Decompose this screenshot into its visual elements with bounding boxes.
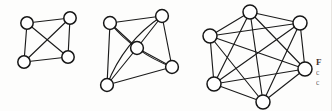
- graph-node: [293, 16, 307, 30]
- caption-line-2: c: [316, 68, 332, 77]
- graph-edge: [214, 23, 300, 84]
- graph-edge: [210, 23, 300, 36]
- complete-graphs-illustration: [0, 0, 332, 111]
- graph-node: [104, 17, 117, 30]
- graph-node: [166, 61, 179, 74]
- graph-node: [203, 29, 217, 43]
- caption-line-3: c: [316, 78, 332, 87]
- graph-edge: [263, 69, 305, 102]
- graph-node: [18, 56, 30, 68]
- graph-node: [298, 62, 312, 76]
- graph-edge: [107, 23, 110, 85]
- graph-edge: [263, 23, 300, 102]
- graph-node: [256, 95, 270, 109]
- graph-edge: [107, 67, 172, 85]
- graph-node: [156, 10, 169, 23]
- graph-node: [207, 77, 221, 91]
- graph-node: [101, 79, 114, 92]
- graph-node: [64, 12, 76, 24]
- nodes-layer: [18, 5, 312, 109]
- graph-node: [243, 5, 257, 19]
- graph-node: [131, 42, 144, 55]
- figure-container: F c c: [0, 0, 332, 111]
- graph-node: [21, 17, 33, 29]
- graph-node: [62, 51, 74, 63]
- caption-fragment: F c c: [316, 57, 332, 87]
- graph-edge: [162, 16, 172, 67]
- caption-line-1: F: [316, 57, 332, 68]
